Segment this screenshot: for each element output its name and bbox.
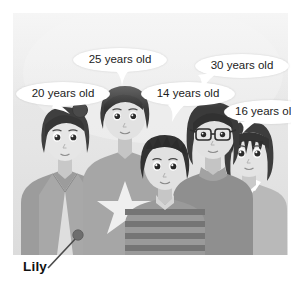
image-canvas: 20 years old 25 years old 14 years old 3… bbox=[0, 0, 291, 285]
bubble-text-20: 20 years old bbox=[30, 88, 97, 100]
bubble-tail-14 bbox=[168, 102, 192, 124]
lily-name-label: Lily bbox=[23, 259, 47, 274]
bubble-text-30: 30 years old bbox=[209, 60, 276, 72]
bubble-tail-25 bbox=[110, 68, 132, 88]
bubble-text-16: 16 years old bbox=[233, 106, 291, 118]
bubble-text-25: 25 years old bbox=[87, 54, 154, 66]
bubble-tail-20 bbox=[52, 102, 74, 116]
bubble-tail-16 bbox=[240, 120, 264, 138]
bubble-tail-30 bbox=[198, 72, 222, 94]
